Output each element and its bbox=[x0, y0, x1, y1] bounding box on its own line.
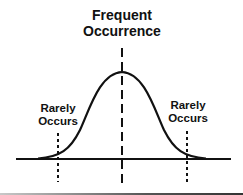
rarely-occurs-left-label: Rarely Occurs bbox=[18, 102, 98, 128]
bottom-edge-bar bbox=[0, 193, 243, 195]
right-label-line-2: Occurs bbox=[148, 112, 228, 125]
right-label-line-1: Rarely bbox=[148, 99, 228, 112]
frequent-occurrence-label: Frequent Occurrence bbox=[71, 8, 173, 39]
title-line-1: Frequent bbox=[71, 8, 173, 24]
rarely-occurs-right-label: Rarely Occurs bbox=[148, 99, 228, 125]
left-label-line-2: Occurs bbox=[18, 115, 98, 128]
left-label-line-1: Rarely bbox=[18, 102, 98, 115]
title-line-2: Occurrence bbox=[71, 24, 173, 40]
